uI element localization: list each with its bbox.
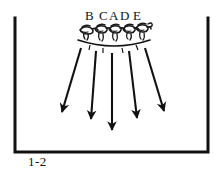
label-b: B — [85, 9, 94, 22]
scribble-figure-a — [109, 24, 125, 41]
scribble-figure-b — [80, 25, 98, 40]
scribble-figure-e — [136, 23, 152, 40]
label-e: E — [133, 9, 141, 22]
arrows-group — [62, 48, 164, 130]
arc-tick-3 — [122, 48, 123, 53]
label-c: C — [99, 9, 108, 22]
arrow-5 — [145, 48, 164, 111]
arrow-2 — [91, 51, 96, 119]
figure-caption: 1-2 — [28, 155, 47, 169]
scribble-figure-c — [95, 24, 111, 41]
label-a: A — [109, 9, 118, 22]
arc-tick-4 — [136, 45, 138, 50]
arrow-1 — [62, 48, 81, 112]
arc-tick-1 — [89, 45, 90, 50]
scribbled-figures-group — [80, 23, 152, 41]
arc-group — [78, 40, 150, 53]
figure-container: B C A D E 1-2 — [0, 0, 222, 175]
figure-drawing — [0, 0, 222, 175]
nest-arc — [78, 40, 150, 46]
arrow-4 — [129, 51, 137, 118]
label-d: D — [120, 9, 129, 22]
